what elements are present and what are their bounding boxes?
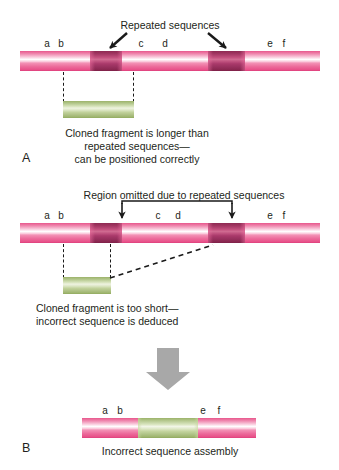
- panel-a-title: Repeated sequences: [120, 19, 219, 32]
- panel-a-caption-line-2: repeated sequences—: [84, 140, 190, 153]
- panel-a-letter: A: [22, 151, 30, 165]
- panel-b-label-e: e: [267, 210, 273, 221]
- panel-b-result-label-e: e: [200, 405, 206, 416]
- panel-a-dash-right: [133, 72, 134, 102]
- panel-b-label-d: d: [175, 210, 181, 221]
- panel-a-label-c: c: [139, 38, 144, 49]
- process-arrow-icon: [146, 348, 190, 390]
- panel-a-repeat-block-2: [208, 51, 245, 71]
- panel-b-letter: B: [22, 441, 30, 455]
- panel-b-cloned-fragment: [63, 277, 111, 294]
- panel-b-label-c: c: [156, 210, 161, 221]
- figure-root: Repeated sequences a b c d e f Cloned fr…: [0, 0, 339, 470]
- panel-b-caption-line-1: Cloned fragment is too short—: [36, 302, 178, 315]
- panel-b-misassembly-dash: [110, 245, 213, 278]
- panel-a-repeat-arrow-left: [110, 33, 127, 48]
- panel-a-label-f: f: [283, 38, 286, 49]
- panel-b-label-a: a: [44, 210, 50, 221]
- panel-b-result-green-segment: [138, 418, 198, 438]
- panel-a-label-a: a: [44, 38, 50, 49]
- panel-a-label-d: d: [162, 38, 168, 49]
- panel-a-label-b: b: [58, 38, 64, 49]
- panel-b-label-b: b: [58, 210, 64, 221]
- panel-a-label-e: e: [267, 38, 273, 49]
- panel-a-repeat-arrow-right: [208, 33, 226, 48]
- panel-b-label-f: f: [283, 210, 286, 221]
- panel-b-chromosome-bar: [20, 223, 320, 243]
- panel-b-title: Region omitted due to repeated sequences: [84, 189, 285, 202]
- panel-a-repeat-block-1: [90, 51, 122, 71]
- panel-b-result-caption: Incorrect sequence assembly: [102, 445, 239, 458]
- panel-b-result-label-f: f: [218, 405, 221, 416]
- panel-b-result-bar: [82, 418, 256, 438]
- panel-b-result-label-a: a: [102, 405, 108, 416]
- panel-b-repeat-block-2: [208, 223, 245, 243]
- panel-b-dash-right: [110, 244, 111, 278]
- panel-a-caption-line-1: Cloned fragment is longer than: [65, 127, 209, 140]
- panel-b-result-label-b: b: [117, 405, 123, 416]
- panel-a-caption-line-3: can be positioned correctly: [75, 153, 200, 166]
- panel-a-chromosome-bar: [20, 51, 320, 71]
- panel-b-caption-line-2: incorrect sequence is deduced: [36, 315, 178, 328]
- panel-a-dash-left: [63, 72, 64, 102]
- panel-a-cloned-fragment: [63, 101, 134, 118]
- panel-b-repeat-block-1: [90, 223, 122, 243]
- panel-b-dash-left: [63, 244, 64, 278]
